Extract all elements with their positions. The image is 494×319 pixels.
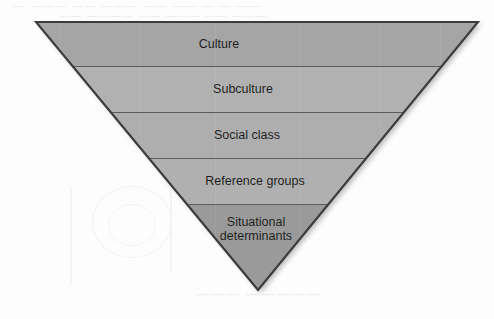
- diagram-canvas: — ——— —— ——— —— —— — — —— —— ———— —— ———…: [0, 0, 494, 319]
- band-rect-situational-determinants: [30, 204, 490, 294]
- band-rect-culture: [30, 22, 490, 66]
- inverted-pyramid-diagram: [0, 0, 494, 319]
- band-rect-reference-groups: [30, 158, 490, 204]
- band-rect-social-class: [30, 112, 490, 158]
- band-rect-subculture: [30, 66, 490, 112]
- pyramid-bands: [30, 22, 490, 294]
